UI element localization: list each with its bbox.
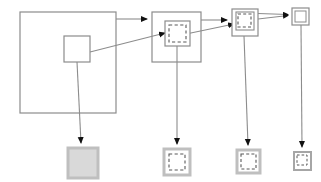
diagram-svg bbox=[0, 0, 321, 182]
result-3-group[interactable] bbox=[237, 150, 260, 173]
vertical-arrow-node3inner-to-result3 bbox=[244, 36, 248, 145]
vertical-arrow-node4-to-result4 bbox=[301, 25, 302, 147]
node-4-group[interactable] bbox=[292, 8, 309, 25]
diagonal-arrow-node3inner-to-node4 bbox=[258, 16, 288, 20]
diagonal-arrow-node2inner-to-node3inner bbox=[186, 24, 234, 34]
result-2-group[interactable] bbox=[164, 149, 190, 175]
bottom-row-results bbox=[68, 148, 311, 178]
node-1-group[interactable] bbox=[20, 12, 116, 113]
result-2-gray-frame[interactable] bbox=[164, 149, 190, 175]
node-3-group[interactable] bbox=[232, 9, 258, 36]
diagonal-arrow-node1inner-to-node2inner bbox=[90, 33, 165, 52]
node-1-inner-square[interactable] bbox=[64, 36, 90, 62]
vertical-arrow-node1inner-to-result1 bbox=[77, 62, 81, 143]
horizontal-arrow-node3-to-node4 bbox=[258, 14, 288, 15]
result-1-group[interactable] bbox=[68, 148, 98, 178]
top-row-nodes bbox=[20, 8, 309, 113]
filled-gray-square[interactable] bbox=[68, 148, 98, 178]
result-4-group[interactable] bbox=[294, 152, 311, 170]
diagram-canvas bbox=[0, 0, 321, 182]
